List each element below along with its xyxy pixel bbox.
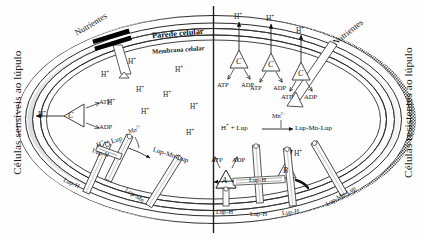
diagram-canvas: Células sensíveis ao lúpulo Células resi… bbox=[0, 0, 427, 239]
pump-b-proton-label: H+ bbox=[294, 150, 302, 157]
right-reaction-arrow bbox=[262, 120, 293, 129]
pump-a-atp-label: ATP bbox=[211, 157, 223, 164]
right-atp-label: ATP bbox=[217, 82, 229, 89]
proton-efflux-label: H+ bbox=[234, 13, 242, 20]
right-internal-lup-label: Lup-H bbox=[249, 177, 266, 183]
right-adp-label: ADP bbox=[273, 85, 286, 92]
proton-efflux-label: H+ bbox=[266, 15, 274, 22]
left-nutrient-channel-blocked bbox=[92, 29, 132, 78]
side-label-right: Células resistentes ao lúpulo bbox=[403, 33, 414, 193]
proton-efflux-label: H+ bbox=[38, 111, 46, 118]
proton-label: H+ bbox=[175, 66, 183, 73]
right-carrier-c-2 bbox=[260, 24, 282, 82]
right-atp-label: ATP bbox=[281, 94, 293, 101]
right-manganese-label: Mn2+ bbox=[272, 113, 285, 119]
right-reaction-product: Lup-Mn-Lup bbox=[295, 125, 332, 132]
proton-label: H+ bbox=[141, 108, 149, 115]
proton-efflux-label: H+ bbox=[296, 27, 304, 34]
right-adp-label: ADP bbox=[304, 94, 317, 101]
pump-a-label: A bbox=[222, 177, 227, 185]
right-transporter-label: Lup-H bbox=[250, 211, 267, 217]
proton-label: H+ bbox=[190, 103, 198, 110]
right-carrier-c-1 bbox=[228, 22, 250, 79]
proton-label: H+ bbox=[163, 91, 171, 98]
right-carrier-label: C bbox=[236, 58, 241, 66]
right-atp-label: ATP bbox=[250, 85, 262, 92]
right-carrier-label: C bbox=[268, 61, 273, 69]
cell-diagram-svg bbox=[0, 0, 427, 239]
right-transporter-label: Lup-H bbox=[216, 209, 233, 215]
pump-a-adp-label: ADP bbox=[232, 157, 245, 164]
proton-label: H+ bbox=[136, 86, 144, 93]
proton-label: H+ bbox=[186, 129, 194, 136]
left-atp-label: ATP bbox=[99, 99, 111, 106]
right-carrier-label: C bbox=[298, 70, 303, 78]
left-carrier-label: C bbox=[68, 112, 73, 120]
left-adp-label: ADP bbox=[99, 124, 112, 131]
proton-label: H+ bbox=[101, 71, 109, 78]
proton-label: H+ bbox=[128, 58, 136, 65]
pump-b-label: B bbox=[283, 167, 288, 175]
right-reaction-reactants: H+ + Lup bbox=[221, 125, 248, 132]
side-label-left: Células sensíveis ao lúpulo bbox=[12, 33, 23, 193]
